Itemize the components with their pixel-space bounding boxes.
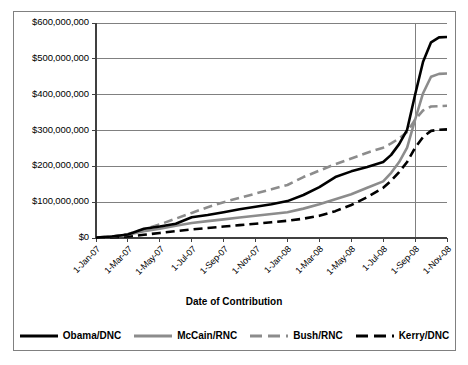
- y-tick-label: $100,000,000: [8, 195, 89, 206]
- legend-swatch-dashed-line-icon: [356, 331, 394, 341]
- chart-legend: Obama/DNCMcCain/RNCBush/RNCKerry/DNC: [14, 330, 455, 341]
- legend-entry-bush-rnc[interactable]: Bush/RNC: [250, 330, 342, 341]
- legend-label: McCain/RNC: [177, 330, 237, 341]
- legend-entry-kerry-dnc[interactable]: Kerry/DNC: [356, 330, 450, 341]
- chart-container: $0$100,000,000$200,000,000$300,000,000$4…: [0, 0, 468, 365]
- legend-swatch-solid-line-icon: [134, 331, 172, 341]
- series-line-mccain-rnc: [96, 74, 447, 238]
- series-line-kerry-dnc: [96, 129, 447, 237]
- x-axis-title: Date of Contribution: [0, 296, 468, 307]
- legend-label: Obama/DNC: [63, 330, 121, 341]
- legend-swatch-solid-line-icon: [20, 331, 58, 341]
- y-tick-label: $200,000,000: [8, 159, 89, 170]
- y-tick-label: $400,000,000: [8, 88, 89, 99]
- series-line-bush-rnc: [96, 106, 447, 238]
- series-line-obama-dnc: [96, 37, 447, 238]
- legend-label: Kerry/DNC: [399, 330, 450, 341]
- legend-label: Bush/RNC: [293, 330, 342, 341]
- y-tick-label: $600,000,000: [8, 16, 89, 27]
- legend-swatch-dashed-line-icon: [250, 331, 288, 341]
- legend-entry-obama-dnc[interactable]: Obama/DNC: [20, 330, 121, 341]
- y-tick-label: $0: [8, 231, 89, 242]
- y-tick-label: $500,000,000: [8, 52, 89, 63]
- legend-entry-mccain-rnc[interactable]: McCain/RNC: [134, 330, 237, 341]
- y-tick-label: $300,000,000: [8, 124, 89, 135]
